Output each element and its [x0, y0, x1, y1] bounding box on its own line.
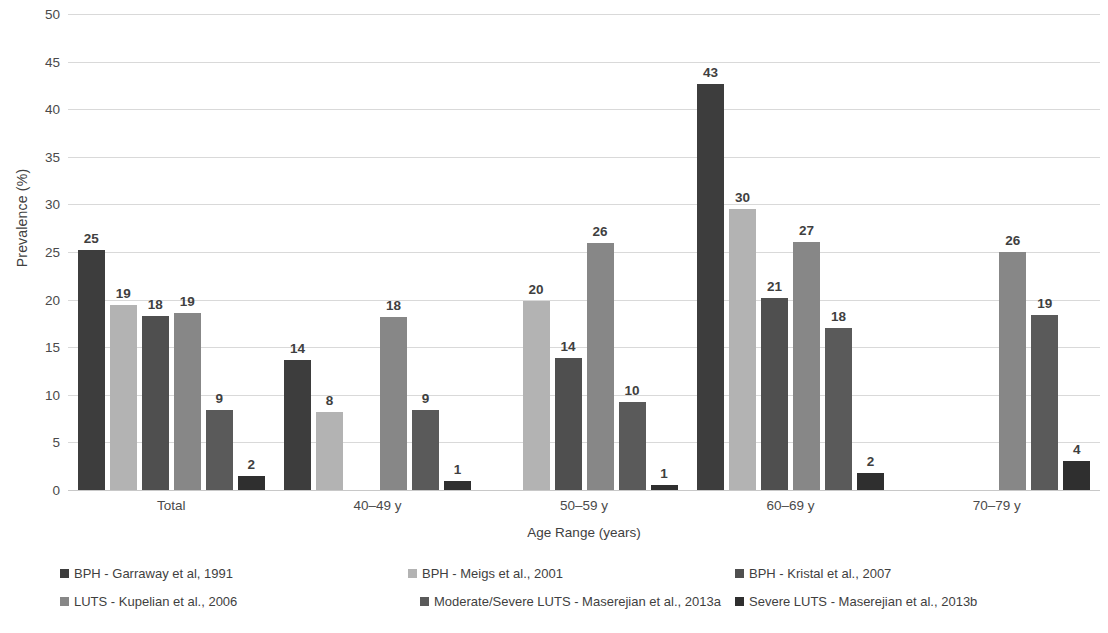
bar[interactable]: 25	[78, 250, 105, 490]
legend-item[interactable]: BPH - Garraway et al, 1991	[60, 560, 233, 586]
bar-value-label: 4	[1073, 442, 1081, 457]
bar[interactable]: 1	[651, 485, 678, 490]
x-tick-label: 70–79 y	[894, 498, 1100, 513]
legend-row: LUTS - Kupelian et al., 2006Moderate/Sev…	[0, 588, 1108, 614]
bar-slot: 9	[206, 14, 233, 490]
legend-label: BPH - Meigs et al., 2001	[422, 566, 563, 581]
x-tick-label: 50–59 y	[481, 498, 687, 513]
prevalence-bar-chart: Prevalence (%) 05101520253035404550 2519…	[0, 0, 1108, 633]
bar-value-label: 1	[454, 462, 462, 477]
legend-item[interactable]: BPH - Kristal et al., 2007	[735, 560, 891, 586]
y-tick-label: 35	[16, 149, 60, 164]
bar-slot: 21	[761, 14, 788, 490]
bar[interactable]: 26	[587, 243, 614, 490]
gridline	[68, 490, 1100, 491]
y-tick-label: 30	[16, 197, 60, 212]
bar[interactable]: 2	[238, 476, 265, 490]
bar-slot: 10	[619, 14, 646, 490]
legend-label: BPH - Kristal et al., 2007	[749, 566, 891, 581]
bar[interactable]: 14	[284, 360, 311, 490]
x-tick-label: 40–49 y	[274, 498, 480, 513]
bar[interactable]: 43	[697, 84, 724, 491]
bar-value-label: 19	[1037, 296, 1052, 311]
legend-swatch-icon	[735, 569, 744, 578]
bar-value-label: 2	[867, 454, 875, 469]
legend-swatch-icon	[735, 597, 744, 606]
bar[interactable]: 27	[793, 242, 820, 490]
bar-value-label: 19	[180, 294, 195, 309]
legend-item[interactable]: BPH - Meigs et al., 2001	[408, 560, 563, 586]
bar-slot: 9	[412, 14, 439, 490]
bar-value-label: 18	[386, 298, 401, 313]
bar[interactable]: 18	[142, 316, 169, 490]
bar-slot: 14	[555, 14, 582, 490]
bar[interactable]: 10	[619, 402, 646, 490]
bar[interactable]: 9	[206, 410, 233, 490]
bar-slot	[491, 14, 518, 490]
y-tick-label: 0	[16, 483, 60, 498]
bar-slot: 20	[523, 14, 550, 490]
bar-slot: 18	[825, 14, 852, 490]
bar-group: 2519181992	[68, 14, 274, 490]
bar-slot: 26	[999, 14, 1026, 490]
legend-label: Moderate/Severe LUTS - Maserejian et al.…	[434, 594, 721, 609]
legend-item[interactable]: LUTS - Kupelian et al., 2006	[60, 588, 237, 614]
bar-value-label: 26	[593, 224, 608, 239]
bar-group: 201426101	[481, 14, 687, 490]
x-axis-title: Age Range (years)	[68, 525, 1100, 540]
legend-swatch-icon	[60, 597, 69, 606]
legend-label: Severe LUTS - Maserejian et al., 2013b	[749, 594, 977, 609]
bar[interactable]: 20	[523, 301, 550, 490]
bar[interactable]: 19	[1031, 315, 1058, 490]
y-tick-label: 45	[16, 54, 60, 69]
bar[interactable]: 4	[1063, 461, 1090, 491]
bar-slot: 1	[651, 14, 678, 490]
plot-wrapper: Prevalence (%) 05101520253035404550 2519…	[0, 0, 1108, 552]
bar[interactable]: 19	[110, 305, 137, 490]
legend-row: BPH - Garraway et al, 1991BPH - Meigs et…	[0, 560, 1108, 586]
bar-slot: 25	[78, 14, 105, 490]
y-tick-label: 10	[16, 387, 60, 402]
legend-item[interactable]: Severe LUTS - Maserejian et al., 2013b	[735, 588, 977, 614]
bar-slot	[935, 14, 962, 490]
bar-value-label: 30	[735, 190, 750, 205]
bar-value-label: 25	[84, 231, 99, 246]
bar-value-label: 26	[1005, 233, 1020, 248]
legend-item[interactable]: Moderate/Severe LUTS - Maserejian et al.…	[420, 588, 721, 614]
y-tick-label: 15	[16, 340, 60, 355]
bar-group: 26194	[894, 14, 1100, 490]
y-tick-label: 25	[16, 245, 60, 260]
bar-slot: 4	[1063, 14, 1090, 490]
bar-value-label: 2	[247, 457, 255, 472]
bar[interactable]: 8	[316, 412, 343, 490]
bar-slot: 1	[444, 14, 471, 490]
bar-slot	[348, 14, 375, 490]
bar[interactable]: 18	[825, 328, 852, 490]
bar-value-label: 9	[215, 391, 223, 406]
bar-group: 1481891	[274, 14, 480, 490]
y-axis-tick-labels: 05101520253035404550	[0, 0, 60, 552]
bar[interactable]: 21	[761, 298, 788, 490]
y-tick-label: 40	[16, 102, 60, 117]
bar[interactable]: 2	[857, 473, 884, 490]
bar[interactable]: 18	[380, 317, 407, 490]
legend-label: LUTS - Kupelian et al., 2006	[74, 594, 237, 609]
bar-slot: 27	[793, 14, 820, 490]
bar[interactable]: 26	[999, 252, 1026, 490]
legend-swatch-icon	[408, 569, 417, 578]
chart-legend: BPH - Garraway et al, 1991BPH - Meigs et…	[0, 560, 1108, 626]
bar-group: 43302127182	[687, 14, 893, 490]
bar-slot	[903, 14, 930, 490]
x-tick-label: 60–69 y	[687, 498, 893, 513]
bar[interactable]: 19	[174, 313, 201, 490]
bar[interactable]: 14	[555, 358, 582, 490]
bar-value-label: 43	[703, 65, 718, 80]
bar[interactable]: 1	[444, 481, 471, 490]
bar-value-label: 14	[290, 341, 305, 356]
bar-slot: 26	[587, 14, 614, 490]
bar-slot: 8	[316, 14, 343, 490]
bar-value-label: 20	[529, 282, 544, 297]
bar[interactable]: 9	[412, 410, 439, 490]
bar-slot: 19	[1031, 14, 1058, 490]
bar[interactable]: 30	[729, 209, 756, 490]
